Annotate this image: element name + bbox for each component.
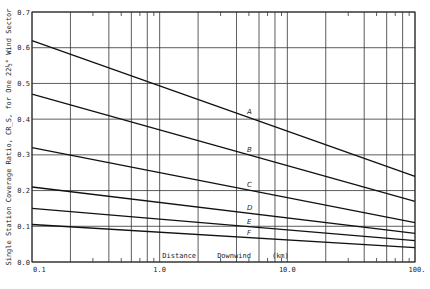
y-axis-label: Single Station Coverage Ratio, CR_S, for… — [5, 8, 13, 265]
y-tick-label: 0.1 — [17, 223, 30, 231]
series-line-a — [32, 41, 415, 177]
series-label-f: F — [247, 229, 252, 237]
x-axis-label: Distance Downwind (km) — [162, 252, 288, 260]
y-tick-label: 0.5 — [17, 80, 30, 88]
x-tick-label: 0.1 — [33, 266, 46, 274]
y-tick-label: 0.0 — [17, 259, 30, 267]
x-tick-label: 100. — [409, 266, 426, 274]
series-group: ABCDEF — [32, 41, 415, 248]
series-label-b: B — [247, 146, 252, 154]
series-label-d: D — [247, 204, 253, 212]
y-tick-label: 0.4 — [17, 116, 30, 124]
series-label-a: A — [246, 108, 252, 116]
y-tick-label: 0.3 — [17, 151, 30, 159]
y-tick-label: 0.7 — [17, 9, 30, 17]
y-tick-label: 0.2 — [17, 187, 30, 195]
x-tick-label: 10.0 — [279, 266, 296, 274]
x-tick-label: 1.0 — [153, 266, 166, 274]
y-tick-label: 0.6 — [17, 44, 30, 52]
series-label-c: C — [247, 181, 252, 189]
chart: ABCDEF 0.00.10.20.30.40.50.60.70.11.010.… — [0, 0, 430, 289]
series-label-e: E — [247, 218, 252, 226]
